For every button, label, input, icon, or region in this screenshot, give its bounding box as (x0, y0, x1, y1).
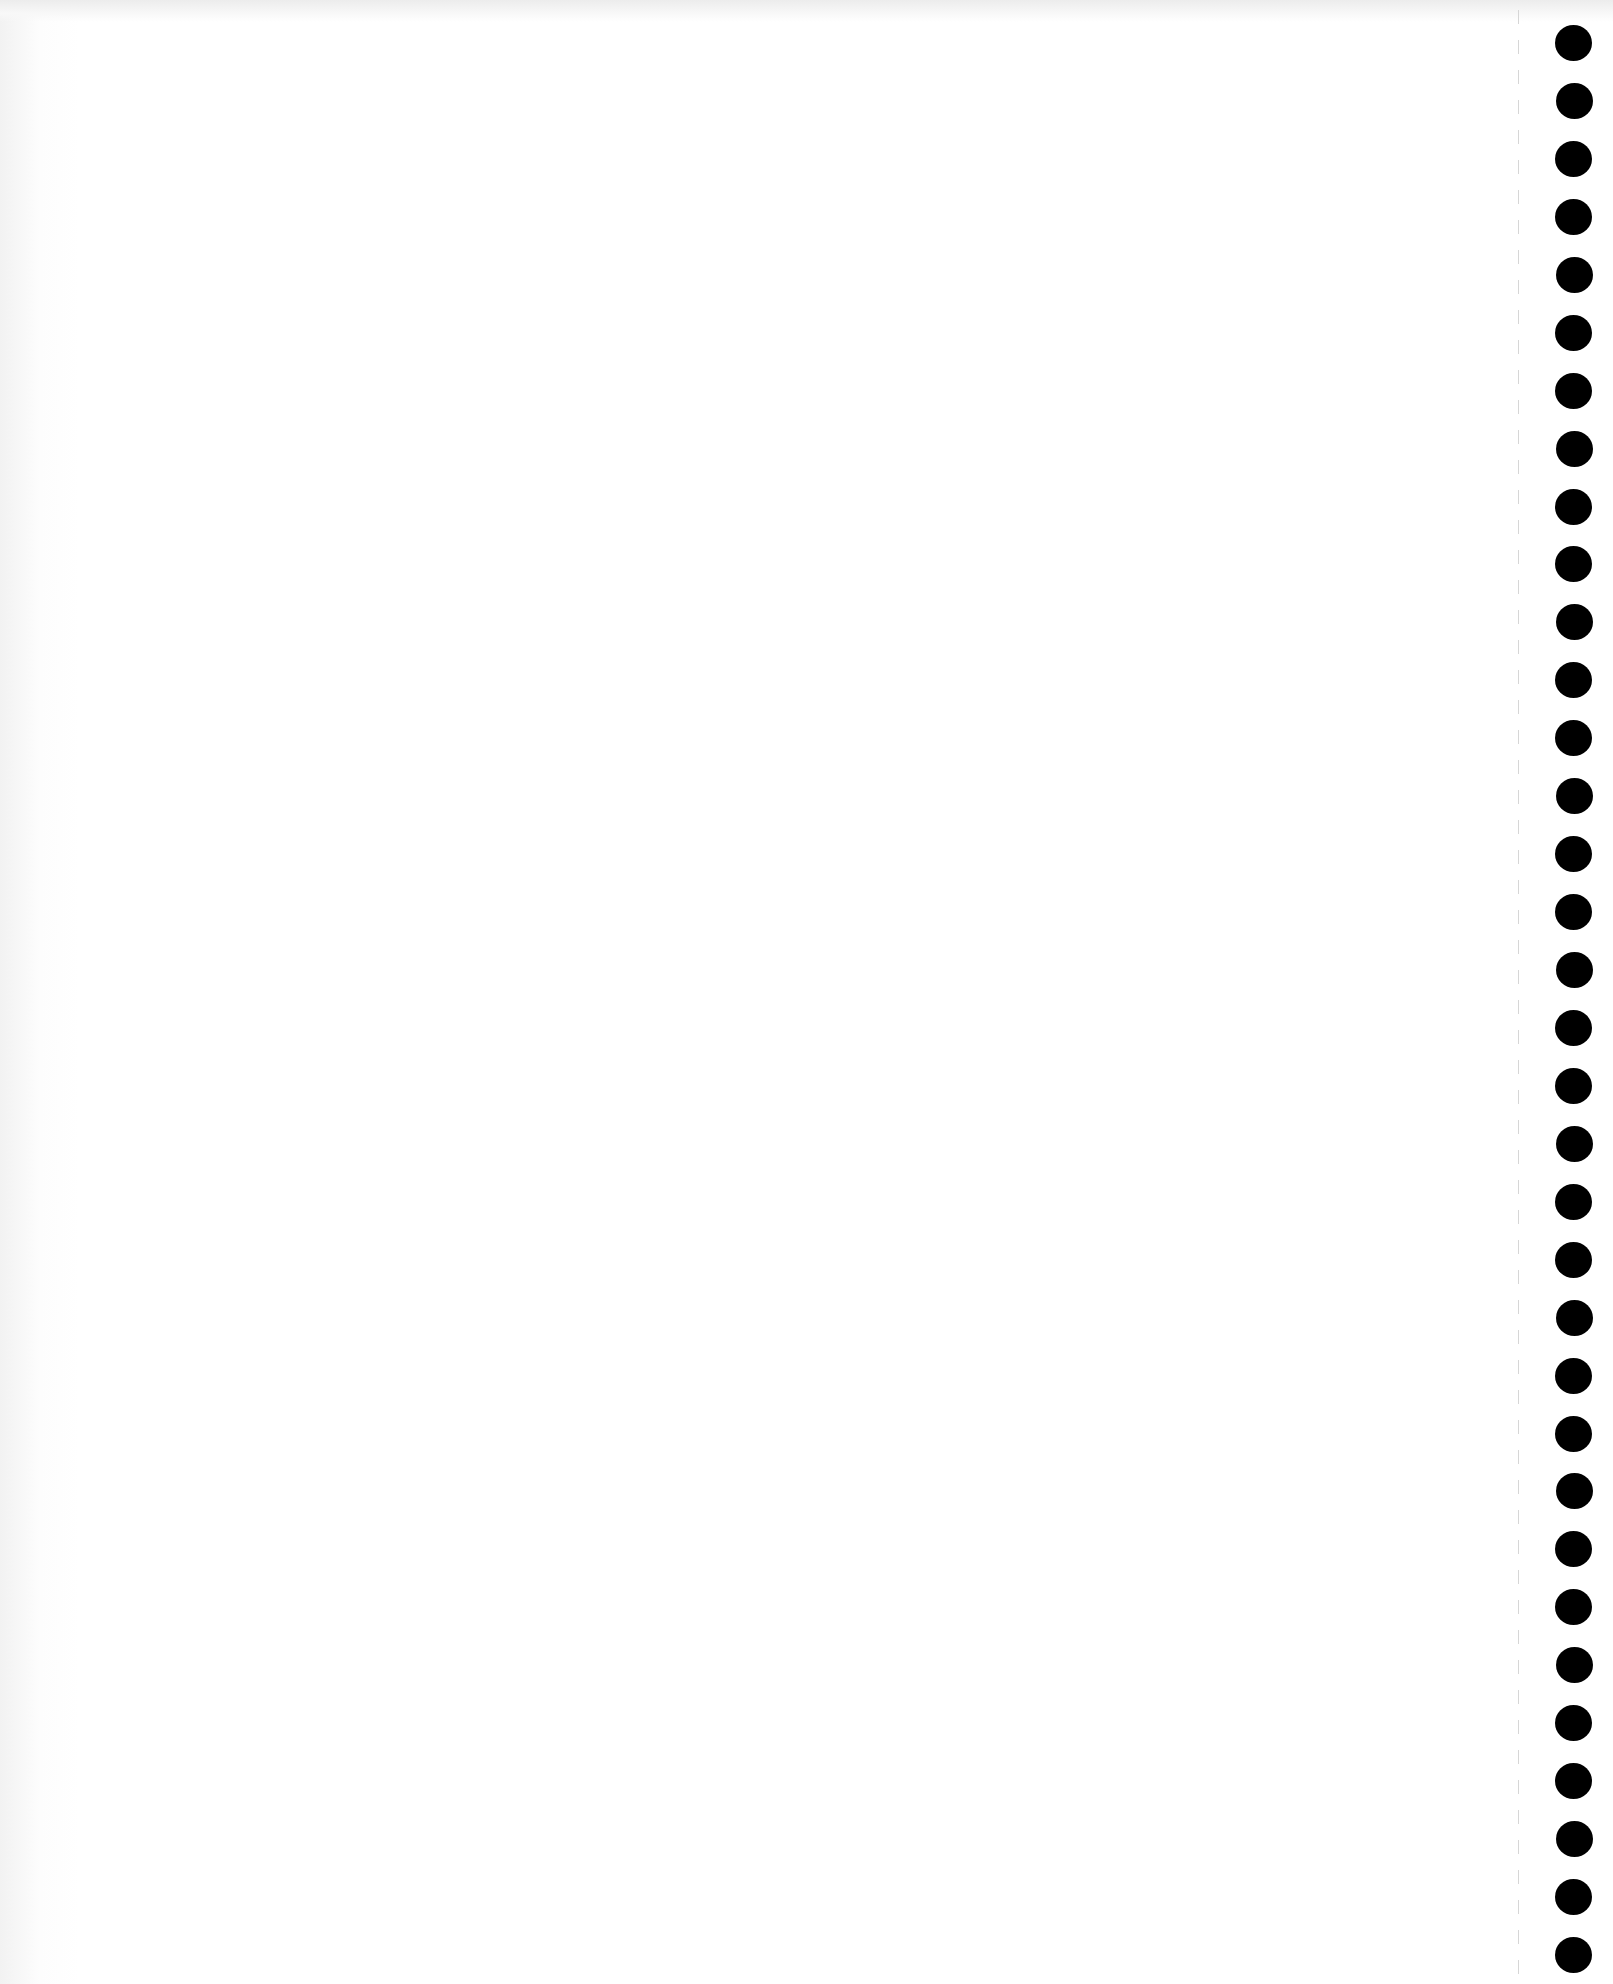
binding-hole-icon (1555, 199, 1592, 235)
binding-hole-icon (1555, 546, 1592, 582)
perforation-line (1518, 10, 1519, 1980)
binding-hole-icon (1556, 1821, 1593, 1857)
binding-hole-icon (1555, 1416, 1592, 1452)
binding-hole-icon (1555, 1531, 1592, 1567)
binding-hole-icon (1555, 315, 1592, 351)
binding-hole-icon (1555, 25, 1592, 61)
binding-hole-icon (1555, 1242, 1592, 1278)
binding-hole-icon (1556, 952, 1593, 988)
binding-hole-icon (1555, 662, 1592, 698)
binding-hole-icon (1556, 1126, 1593, 1162)
binding-hole-icon (1555, 1879, 1592, 1915)
binding-hole-icon (1555, 1010, 1592, 1046)
binding-hole-icon (1556, 257, 1593, 293)
scan-top-edge (0, 0, 1613, 22)
binding-hole-icon (1555, 141, 1592, 177)
binding-hole-icon (1555, 1068, 1592, 1104)
binding-hole-icon (1555, 1184, 1592, 1220)
binding-hole-icon (1556, 604, 1593, 640)
binding-hole-icon (1556, 431, 1593, 467)
binding-hole-icon (1555, 836, 1592, 872)
binding-hole-icon (1555, 720, 1592, 756)
binding-hole-icon (1556, 1647, 1593, 1683)
binding-hole-icon (1555, 1589, 1592, 1625)
binding-hole-icon (1556, 1473, 1593, 1509)
binding-hole-icon (1555, 1358, 1592, 1394)
binding-holes (1555, 0, 1595, 1984)
blank-page (0, 0, 1613, 1984)
binding-hole-icon (1555, 373, 1592, 409)
binding-hole-icon (1555, 894, 1592, 930)
binding-hole-icon (1555, 1763, 1592, 1799)
binding-hole-icon (1556, 83, 1593, 119)
binding-hole-icon (1556, 1300, 1593, 1336)
binding-hole-icon (1556, 778, 1593, 814)
binding-hole-icon (1555, 1937, 1592, 1973)
binding-hole-icon (1555, 489, 1592, 525)
binding-hole-icon (1555, 1705, 1592, 1741)
